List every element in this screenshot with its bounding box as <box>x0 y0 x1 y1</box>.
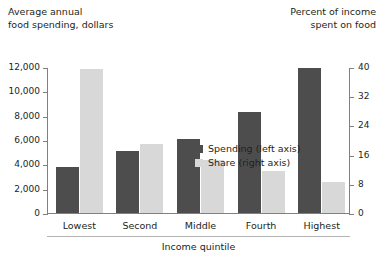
bar-spending <box>56 167 79 213</box>
left-tick-label: 0 <box>34 209 40 218</box>
left-tick-mark <box>43 68 47 69</box>
x-axis-title: Income quintile <box>47 241 350 253</box>
plot-area: 12,00010,0008,0006,0004,0002,0000 403224… <box>47 68 350 214</box>
left-tick-mark <box>43 165 47 166</box>
legend-label-share: Share (right axis) <box>208 158 290 168</box>
left-tick-label: 2,000 <box>14 185 40 194</box>
bar-group <box>56 67 103 213</box>
legend-item-share: Share (right axis) <box>195 156 301 170</box>
right-tick-label: 0 <box>358 209 364 218</box>
right-tick-mark <box>350 214 354 215</box>
bar-group <box>298 67 345 213</box>
left-axis-header: Average annual food spending, dollars <box>8 6 113 31</box>
bar-share <box>322 182 345 213</box>
bar-group <box>116 67 163 213</box>
x-category-label: Highest <box>278 220 365 231</box>
left-axis-line <box>47 68 48 215</box>
left-tick-label: 10,000 <box>9 87 41 96</box>
right-axis-line <box>349 68 350 215</box>
bar-group <box>177 67 224 213</box>
right-tick-label: 40 <box>358 63 369 72</box>
left-tick-mark <box>43 214 47 215</box>
right-tick-mark <box>350 68 354 69</box>
bar-share <box>140 144 163 213</box>
right-tick-label: 8 <box>358 180 364 189</box>
left-tick-mark <box>43 117 47 118</box>
right-tick-mark <box>350 156 354 157</box>
bar-group <box>238 67 285 213</box>
x-axis-rule <box>47 236 350 237</box>
left-tick-mark <box>43 190 47 191</box>
left-tick-label: 8,000 <box>14 112 40 121</box>
legend-swatch-share <box>195 159 203 167</box>
left-tick-mark <box>43 92 47 93</box>
right-tick-label: 16 <box>358 151 369 160</box>
right-axis-header: Percent of income spent on food <box>290 6 376 31</box>
right-tick-mark <box>350 126 354 127</box>
legend-swatch-spending <box>195 145 203 153</box>
x-axis-line <box>47 213 350 214</box>
right-tick-mark <box>350 97 354 98</box>
right-tick-label: 32 <box>358 92 369 101</box>
bar-spending <box>298 68 321 213</box>
legend-label-spending: Spending (left axis) <box>208 144 301 154</box>
left-tick-label: 12,000 <box>9 63 41 72</box>
legend-item-spending: Spending (left axis) <box>195 142 301 156</box>
right-tick-label: 24 <box>358 121 369 130</box>
chart-legend: Spending (left axis) Share (right axis) <box>195 142 301 170</box>
bar-share <box>80 69 103 213</box>
left-tick-mark <box>43 141 47 142</box>
left-tick-label: 4,000 <box>14 160 40 169</box>
right-tick-mark <box>350 185 354 186</box>
bar-spending <box>116 151 139 213</box>
left-tick-label: 6,000 <box>14 136 40 145</box>
bar-share <box>262 171 285 213</box>
